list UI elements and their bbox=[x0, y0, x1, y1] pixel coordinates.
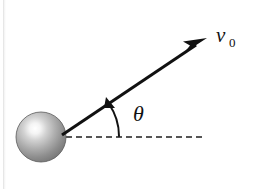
velocity-label-subscript: 0 bbox=[229, 35, 236, 50]
ball-sphere bbox=[16, 112, 66, 162]
diagram-canvas: v 0 θ bbox=[0, 0, 255, 189]
angle-label-theta: θ bbox=[133, 101, 144, 126]
physics-diagram-figure: v 0 θ bbox=[0, 0, 255, 189]
velocity-label-symbol: v bbox=[216, 23, 226, 47]
